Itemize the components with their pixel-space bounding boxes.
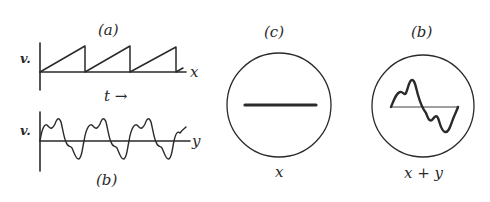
panel-c-screen: (c) x <box>227 23 331 181</box>
sawtooth-wave <box>40 46 183 72</box>
panel-c-label: (c) <box>264 23 284 41</box>
panel-b-screen-label-top: (b) <box>411 23 432 41</box>
panel-a-label: (a) <box>98 21 119 39</box>
composite-wave <box>40 119 186 159</box>
panel-b-wave: v. y (b) <box>20 112 201 189</box>
panel-b-screen-label: x + y <box>404 164 444 182</box>
panel-b-ylabel: v. <box>20 123 31 138</box>
panel-b-screen: (b) x + y <box>372 23 474 182</box>
time-arrow-label: t → <box>104 87 128 105</box>
panel-a-sawtooth: (a) v. x t → <box>20 21 199 105</box>
panel-b-y-label: y <box>191 132 201 150</box>
oscilloscope-figure: (a) v. x t → v. y (b) (c) x (b) x + y <box>0 0 490 202</box>
panel-a-ylabel: v. <box>20 51 31 66</box>
panel-a-x-label: x <box>190 63 199 81</box>
panel-c-screen-label: x <box>275 163 284 181</box>
panel-b-label: (b) <box>96 171 117 189</box>
xy-trace <box>391 80 458 132</box>
